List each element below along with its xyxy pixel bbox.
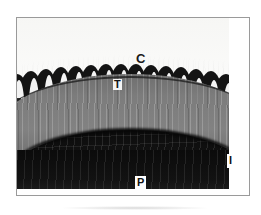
label-c: C [136, 52, 145, 65]
micrograph-figure: C T I P [0, 0, 261, 215]
micrograph-frame: C T I P [16, 17, 250, 196]
micrograph-bottom-gutter [17, 189, 239, 192]
region-i-upper-boundary-line [17, 76, 239, 136]
region-p-floor-texture [17, 150, 239, 192]
label-i: I [227, 154, 234, 168]
below-figure-smudge [60, 206, 210, 210]
label-p: P [135, 176, 146, 190]
label-t: T [113, 79, 122, 90]
micrograph-image: C T I P [17, 18, 239, 192]
